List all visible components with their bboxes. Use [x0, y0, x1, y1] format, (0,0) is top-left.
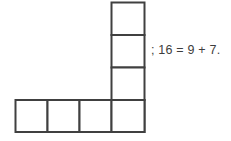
row-cell-1 — [16, 100, 48, 132]
polyomino-figure — [0, 0, 231, 141]
column-cell-2 — [112, 35, 145, 68]
column-cell-1 — [112, 3, 145, 36]
row-cell-4-corner — [112, 100, 145, 132]
row-cell-2 — [48, 100, 80, 132]
equation-annotation: ; 16 = 9 + 7. — [151, 41, 231, 59]
row-cell-3 — [80, 100, 112, 132]
figure-canvas: ; 16 = 9 + 7. — [0, 0, 231, 141]
column-cell-3 — [112, 68, 145, 101]
horizontal-row-group — [16, 100, 145, 132]
